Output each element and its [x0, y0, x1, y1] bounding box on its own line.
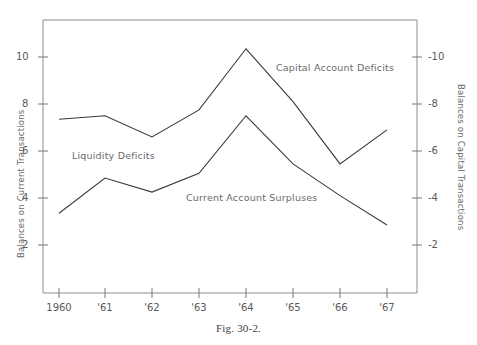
figure-container: Balances on Current Transactions Balance… [0, 0, 477, 345]
annotation-capital-account-deficits: Capital Account Deficits [276, 62, 394, 73]
annotation-liquidity-deficits: Liquidity Deficits [72, 150, 155, 161]
y-left-label-2: 2 [22, 239, 28, 250]
y-left-label-4: 4 [22, 192, 28, 203]
annotation-current-account-surpluses: Current Account Surpluses [186, 192, 317, 203]
x-label-63: '63 [181, 302, 217, 313]
y-right-label-minus8: -8 [428, 98, 438, 109]
series-line-current-account-surpluses [59, 116, 387, 225]
y-right-label-minus4: -4 [428, 192, 438, 203]
y-right-label-minus2: -2 [428, 239, 438, 250]
chart-plot-area [0, 0, 477, 345]
x-label-64: '64 [228, 302, 264, 313]
x-label-61: '61 [87, 302, 123, 313]
x-label-66: '66 [322, 302, 358, 313]
x-label-67: '67 [369, 302, 405, 313]
x-label-65: '65 [275, 302, 311, 313]
y-axis-right-title: Balances on Capital Transactions [456, 84, 466, 230]
x-label-62: '62 [134, 302, 170, 313]
figure-caption: Fig. 30-2. [0, 322, 477, 334]
y-right-label-minus10: -10 [428, 51, 444, 62]
y-left-label-8: 8 [22, 98, 28, 109]
y-axis-left-title: Balances on Current Transactions [16, 110, 26, 258]
y-left-label-6: 6 [22, 145, 28, 156]
x-label-1960: 1960 [39, 302, 79, 313]
y-left-label-10: 10 [16, 51, 29, 62]
y-right-label-minus6: -6 [428, 145, 438, 156]
